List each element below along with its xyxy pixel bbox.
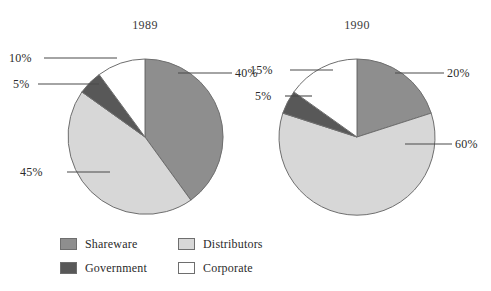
legend-swatch-government bbox=[60, 262, 77, 274]
pct-label-1990-shareware: 20% bbox=[447, 66, 470, 81]
legend-item-government[interactable]: Government bbox=[60, 261, 178, 276]
pct-label-1989-government: 5% bbox=[13, 77, 29, 92]
legend-swatch-distributors bbox=[178, 238, 195, 250]
legend-item-distributors[interactable]: Distributors bbox=[178, 237, 308, 252]
legend-label-corporate: Corporate bbox=[203, 261, 253, 276]
legend-label-shareware: Shareware bbox=[85, 237, 137, 252]
legend-swatch-corporate bbox=[178, 262, 195, 274]
legend-swatch-shareware bbox=[60, 238, 77, 250]
pct-label-1990-government: 5% bbox=[255, 89, 271, 104]
legend-item-shareware[interactable]: Shareware bbox=[60, 237, 178, 252]
legend-item-corporate[interactable]: Corporate bbox=[178, 261, 308, 276]
legend-label-distributors: Distributors bbox=[203, 237, 263, 252]
pct-label-1989-corporate: 10% bbox=[9, 51, 32, 66]
pct-label-1989-distributors: 45% bbox=[20, 165, 43, 180]
legend-label-government: Government bbox=[85, 261, 147, 276]
pie-chart-figure: 1989 1990 40% 45% 5% 10% bbox=[0, 0, 491, 291]
pct-label-1990-corporate: 15% bbox=[250, 63, 273, 78]
pct-label-1990-distributors: 60% bbox=[455, 137, 478, 152]
chart-legend: Shareware Distributors Government Corpor… bbox=[60, 232, 360, 280]
